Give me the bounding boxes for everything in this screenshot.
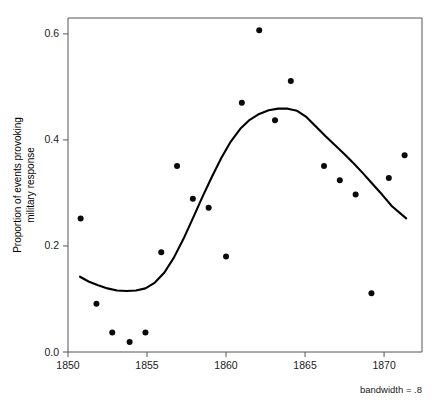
- data-point: [368, 290, 374, 296]
- x-tick-label: 1860: [214, 359, 238, 371]
- data-point: [93, 301, 99, 307]
- data-point: [256, 27, 262, 33]
- plot-frame: [68, 18, 422, 352]
- y-axis-title-line-1: Proportion of events provoking: [12, 117, 23, 253]
- data-point: [272, 117, 278, 123]
- y-tick-label: 0.4: [44, 133, 59, 145]
- data-point: [223, 254, 229, 260]
- bandwidth-annotation: bandwidth = .8: [360, 384, 422, 395]
- y-tick-label: 0.0: [44, 346, 59, 358]
- chart-figure: 0.00.20.40.6 18501855186018651870 Propor…: [0, 0, 440, 406]
- x-tick-label: 1855: [135, 359, 159, 371]
- data-point: [402, 152, 408, 158]
- data-point: [206, 205, 212, 211]
- lowess-smooth-curve: [80, 109, 406, 291]
- data-point: [78, 215, 84, 221]
- y-tick-label: 0.6: [44, 27, 59, 39]
- data-point: [386, 175, 392, 181]
- data-point: [109, 329, 115, 335]
- y-axis-title: Proportion of events provoking military …: [12, 117, 36, 253]
- x-tick-label: 1850: [56, 359, 80, 371]
- data-point: [239, 100, 245, 106]
- y-axis-title-line-2: military response: [25, 147, 36, 223]
- x-tick-label: 1870: [372, 359, 396, 371]
- x-tick-label: 1865: [293, 359, 317, 371]
- x-axis-ticks: 18501855186018651870: [56, 352, 396, 371]
- scatter-plot-canvas: 0.00.20.40.6 18501855186018651870 Propor…: [0, 0, 440, 406]
- data-point: [142, 329, 148, 335]
- data-point: [337, 177, 343, 183]
- data-point: [174, 163, 180, 169]
- scatter-points-group: [78, 27, 408, 345]
- data-point: [353, 192, 359, 198]
- data-point: [127, 339, 133, 345]
- data-point: [158, 249, 164, 255]
- data-point: [190, 196, 196, 202]
- data-point: [288, 78, 294, 84]
- y-tick-label: 0.2: [44, 239, 59, 251]
- data-point: [321, 163, 327, 169]
- y-axis-ticks: 0.00.20.40.6: [44, 27, 68, 357]
